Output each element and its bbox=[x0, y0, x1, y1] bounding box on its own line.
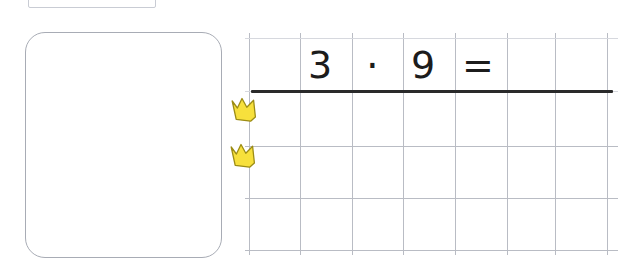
answer-rule-line bbox=[251, 90, 613, 93]
gridline-vertical bbox=[555, 33, 556, 255]
gridline-vertical bbox=[455, 33, 456, 255]
crown-icon bbox=[229, 95, 261, 125]
equation-token-first-factor: 3 bbox=[308, 46, 332, 84]
gridline-vertical bbox=[300, 33, 301, 255]
gridline-horizontal bbox=[245, 198, 618, 199]
worksheet-canvas: 3 · 9 = bbox=[0, 0, 643, 275]
gridline-horizontal bbox=[245, 250, 618, 251]
gridline-vertical bbox=[352, 33, 353, 255]
gridline-horizontal bbox=[245, 38, 618, 39]
equation-token-second-factor: 9 bbox=[411, 46, 435, 84]
answer-card[interactable] bbox=[25, 32, 222, 258]
gridline-vertical bbox=[403, 33, 404, 255]
equation-token-equals-sign: = bbox=[462, 46, 494, 84]
equation-token-multiplication-dot: · bbox=[366, 46, 379, 86]
crown-icon bbox=[228, 141, 260, 171]
clipped-label-box[interactable] bbox=[28, 0, 156, 8]
gridline-horizontal bbox=[245, 146, 618, 147]
gridline-vertical bbox=[507, 33, 508, 255]
gridline-vertical bbox=[607, 33, 608, 255]
